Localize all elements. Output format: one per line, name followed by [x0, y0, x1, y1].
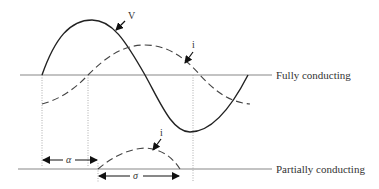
current-pointer-arrow-bottom: [153, 139, 161, 150]
current-label-bottom: i: [160, 127, 163, 138]
partially-conducting-label: Partially conducting: [276, 163, 365, 175]
voltage-waveform: [42, 20, 248, 132]
sigma-label: σ: [133, 170, 139, 181]
voltage-label: V: [128, 10, 136, 21]
fully-conducting-label: Fully conducting: [276, 69, 351, 81]
current-pointer-arrow-top: [185, 52, 193, 63]
current-label-top: i: [192, 39, 195, 50]
alpha-label: α: [66, 154, 72, 165]
current-waveform-partial: [98, 148, 180, 169]
conduction-diagram: Fully conducting Partially conducting V …: [0, 0, 379, 189]
voltage-pointer-arrow: [116, 21, 125, 30]
